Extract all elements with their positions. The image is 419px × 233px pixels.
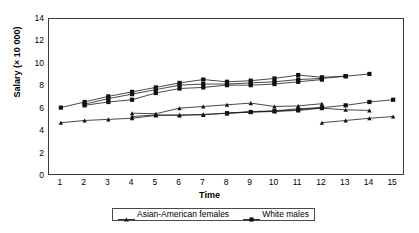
x-tick-label: 4 (121, 178, 141, 187)
series-white-males (59, 72, 372, 110)
y-tick-label: 10 (22, 59, 44, 67)
data-point-square (59, 105, 63, 109)
data-point-square (177, 86, 181, 90)
legend-square-icon (243, 210, 260, 219)
chart-figure: Salary (× 10 000) 02468101214 1234567891… (0, 0, 419, 233)
x-axis-label: Time (0, 190, 419, 200)
y-tick-label: 8 (22, 81, 44, 89)
legend-label: White males (262, 210, 309, 219)
data-point-square (367, 100, 371, 104)
legend-triangle-icon (118, 210, 135, 219)
data-point-square (130, 98, 134, 102)
x-axis-tick-labels: 123456789101112131415 (0, 178, 419, 190)
data-point-square (201, 77, 205, 81)
data-point-square (391, 98, 395, 102)
data-point-square (367, 72, 371, 76)
series-asian-american-females (59, 106, 372, 125)
data-point-square (106, 100, 110, 104)
data-point-square (249, 83, 253, 87)
plot-area (48, 18, 404, 175)
x-tick-label: 13 (335, 178, 355, 187)
data-point-square (296, 73, 300, 77)
x-tick-label: 1 (50, 178, 70, 187)
x-tick-label: 10 (263, 178, 283, 187)
x-tick-label: 8 (216, 178, 236, 187)
legend-label: Asian-American females (137, 210, 229, 219)
data-point-square (296, 80, 300, 84)
y-tick-label: 4 (22, 126, 44, 134)
data-point-square (201, 85, 205, 89)
data-point-square (320, 77, 324, 81)
data-point-square (344, 103, 348, 107)
series-white-males (83, 74, 348, 106)
series-asian-american-females (320, 115, 396, 125)
y-tick-label: 6 (22, 104, 44, 112)
x-tick-label: 3 (97, 178, 117, 187)
x-tick-label: 9 (240, 178, 260, 187)
x-tick-label: 15 (382, 178, 402, 187)
x-tick-label: 12 (311, 178, 331, 187)
y-tick-label: 14 (22, 14, 44, 22)
y-tick-label: 12 (22, 36, 44, 44)
data-point-square (344, 74, 348, 78)
series-asian-american-females (130, 106, 324, 119)
x-tick-label: 14 (358, 178, 378, 187)
x-tick-label: 2 (74, 178, 94, 187)
data-point-square (83, 103, 87, 107)
x-tick-label: 7 (192, 178, 212, 187)
x-tick-label: 6 (169, 178, 189, 187)
data-point-square (130, 92, 134, 96)
data-point-square (272, 82, 276, 86)
legend-item-asian-american-females: Asian-American females (118, 210, 229, 219)
data-point-square (250, 217, 254, 221)
chart-legend: Asian-American femalesWhite males (112, 208, 315, 221)
y-tick-label: 2 (22, 149, 44, 157)
legend-item-white-males: White males (243, 210, 309, 219)
series-canvas (49, 19, 405, 176)
series-line (322, 117, 393, 123)
x-tick-label: 11 (287, 178, 307, 187)
x-tick-label: 5 (145, 178, 165, 187)
data-point-square (154, 91, 158, 95)
data-point-square (225, 83, 229, 87)
